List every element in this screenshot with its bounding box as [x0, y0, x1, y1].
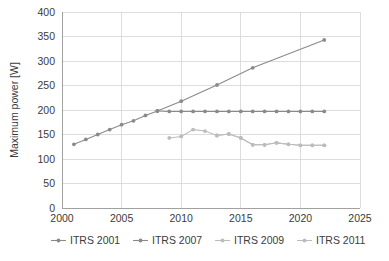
legend-label: ITRS 2011 — [316, 234, 366, 246]
data-point — [299, 143, 303, 147]
data-point — [203, 110, 207, 114]
data-point — [96, 133, 100, 137]
y-tick-label: 50 — [43, 177, 55, 189]
y-axis-title: Maximum power [W] — [8, 62, 20, 158]
legend-marker-point — [57, 239, 61, 243]
data-point — [322, 38, 326, 42]
x-tick-label: 2005 — [110, 212, 134, 224]
line-chart: 050100150200250300350400 200020052010201… — [0, 0, 389, 261]
y-tick-label: 400 — [37, 6, 55, 18]
data-point — [179, 110, 183, 114]
y-tick-labels: 050100150200250300350400 — [37, 6, 55, 214]
data-point — [322, 110, 326, 114]
data-point — [310, 143, 314, 147]
data-point — [275, 110, 279, 114]
series-group — [72, 38, 326, 147]
y-axis-title-text: Maximum power [W] — [8, 62, 20, 158]
data-point — [191, 128, 195, 132]
series-line — [169, 130, 324, 146]
data-point — [263, 110, 267, 114]
x-tick-label: 2025 — [348, 212, 372, 224]
data-point — [299, 110, 303, 114]
data-point — [287, 110, 291, 114]
data-point — [155, 109, 159, 113]
x-tick-label: 2010 — [170, 212, 194, 224]
y-tick-label: 100 — [37, 153, 55, 165]
data-point — [144, 113, 148, 117]
legend-label: ITRS 2001 — [70, 234, 120, 246]
series-line — [74, 40, 324, 144]
data-point — [227, 110, 231, 114]
data-point — [239, 136, 243, 140]
legend-label: ITRS 2009 — [234, 234, 284, 246]
data-point — [215, 110, 219, 114]
series-3 — [167, 128, 326, 147]
data-point — [72, 142, 76, 146]
legend-marker-point — [303, 239, 307, 243]
data-point — [167, 110, 171, 114]
y-tick-label: 250 — [37, 79, 55, 91]
data-point — [227, 132, 231, 136]
grid-group — [62, 12, 360, 208]
x-tick-labels: 200020052010201520202025 — [50, 212, 372, 224]
data-point — [84, 138, 88, 142]
data-point — [167, 136, 171, 140]
y-tick-label: 350 — [37, 30, 55, 42]
legend-label: ITRS 2007 — [152, 234, 202, 246]
data-point — [275, 141, 279, 145]
x-tick-label: 2020 — [289, 212, 313, 224]
y-tick-label: 150 — [37, 128, 55, 140]
data-point — [215, 134, 219, 138]
x-tick-label: 2000 — [50, 212, 74, 224]
x-tick-label: 2015 — [229, 212, 253, 224]
data-point — [215, 83, 219, 87]
data-point — [203, 129, 207, 133]
y-tick-label: 300 — [37, 55, 55, 67]
data-point — [287, 142, 291, 146]
data-point — [251, 110, 255, 114]
data-point — [310, 110, 314, 114]
series-2 — [155, 109, 326, 113]
legend-marker-point — [221, 239, 225, 243]
data-point — [251, 66, 255, 70]
data-point — [179, 99, 183, 103]
data-point — [239, 110, 243, 114]
data-point — [108, 128, 112, 132]
y-tick-label: 200 — [37, 104, 55, 116]
chart-container: 050100150200250300350400 200020052010201… — [0, 0, 389, 261]
legend-marker-point — [139, 239, 143, 243]
data-point — [251, 143, 255, 147]
legend: ITRS 2001ITRS 2007ITRS 2009ITRS 2011 — [51, 234, 366, 246]
data-point — [191, 110, 195, 114]
data-point — [120, 123, 124, 127]
data-point — [179, 135, 183, 139]
data-point — [322, 143, 326, 147]
series-line — [217, 134, 324, 145]
data-point — [132, 119, 136, 123]
data-point — [263, 143, 267, 147]
